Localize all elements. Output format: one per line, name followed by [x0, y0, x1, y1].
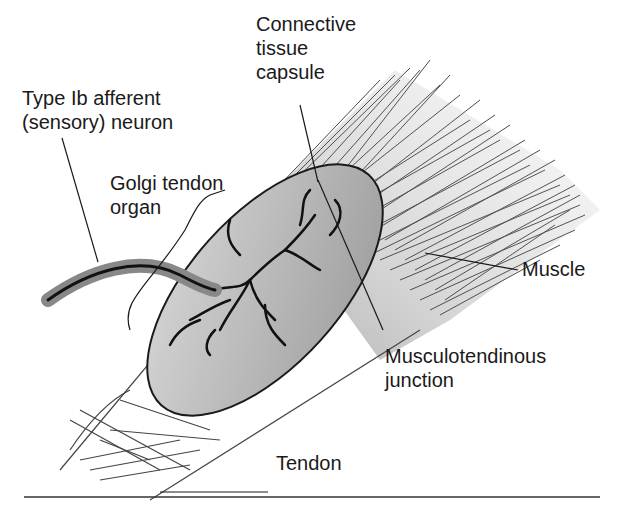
- label-connective-tissue-capsule: Connective tissue capsule: [256, 12, 356, 84]
- label-musculotendinous-junction: Musculotendinous junction: [385, 344, 546, 392]
- label-tendon: Tendon: [276, 451, 342, 475]
- label-muscle: Muscle: [522, 257, 585, 281]
- label-type-ib-afferent: Type Ib afferent (sensory) neuron: [22, 86, 173, 134]
- label-golgi-tendon-organ: Golgi tendon organ: [110, 171, 223, 219]
